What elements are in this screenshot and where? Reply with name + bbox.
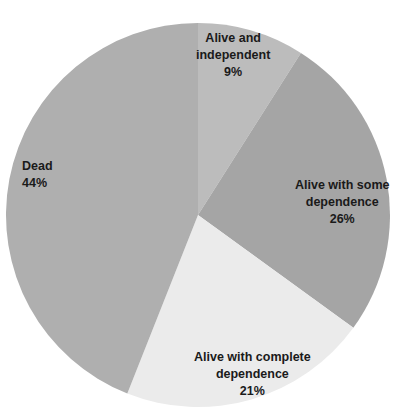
label-percent: 9%: [196, 64, 270, 81]
label-line: Alive with some: [295, 177, 389, 194]
label-percent: 26%: [295, 211, 389, 228]
label-dead: Dead 44%: [22, 158, 53, 192]
label-line: Alive and: [196, 30, 270, 47]
label-percent: 21%: [194, 383, 311, 400]
label-alive-independent: Alive and independent 9%: [196, 30, 270, 81]
label-alive-some-dependence: Alive with some dependence 26%: [295, 177, 389, 228]
label-line: dependence: [194, 366, 311, 383]
label-line: dependence: [295, 194, 389, 211]
label-percent: 44%: [22, 175, 53, 192]
label-line: Dead: [22, 158, 53, 175]
label-line: independent: [196, 47, 270, 64]
label-line: Alive with complete: [194, 349, 311, 366]
label-alive-complete-dependence: Alive with complete dependence 21%: [194, 349, 311, 400]
